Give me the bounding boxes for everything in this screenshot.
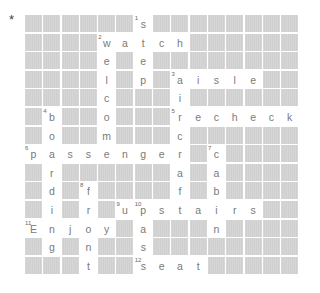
crossword-cell[interactable]: e	[245, 108, 262, 125]
crossword-cell[interactable]: t	[190, 257, 207, 274]
crossword-cell[interactable]: r	[226, 201, 243, 218]
crossword-cell[interactable]: e	[153, 145, 170, 162]
crossword-cell[interactable]: d	[43, 182, 60, 199]
crossword-cell[interactable]: h	[226, 108, 243, 125]
crossword-cell[interactable]: 10p	[135, 201, 152, 218]
crossword-cell[interactable]: s	[153, 201, 170, 218]
blocked-cell	[263, 71, 280, 88]
crossword-cell[interactable]: g	[43, 238, 60, 255]
blocked-cell	[190, 145, 207, 162]
crossword-cell[interactable]: 8f	[80, 182, 97, 199]
blocked-cell	[62, 89, 79, 106]
crossword-cell[interactable]: e	[135, 52, 152, 69]
crossword-cell[interactable]: c	[171, 127, 188, 144]
crossword-cell[interactable]: e	[98, 145, 115, 162]
crossword-cell[interactable]: r	[80, 201, 97, 218]
crossword-cell[interactable]: 6p	[25, 145, 42, 162]
cell-letter: i	[190, 74, 207, 86]
cell-letter: a	[171, 74, 188, 86]
crossword-cell[interactable]: c	[153, 34, 170, 51]
blocked-cell	[245, 238, 262, 255]
crossword-cell[interactable]: a	[43, 145, 60, 162]
crossword-cell[interactable]: y	[98, 220, 115, 237]
crossword-cell[interactable]: c	[208, 108, 225, 125]
blocked-cell	[226, 238, 243, 255]
blocked-cell	[62, 52, 79, 69]
blocked-cell	[43, 15, 60, 32]
crossword-cell[interactable]: r	[43, 164, 60, 181]
blocked-cell	[245, 145, 262, 162]
crossword-cell[interactable]: n	[43, 220, 60, 237]
crossword-cell[interactable]: l	[98, 71, 115, 88]
crossword-cell[interactable]: a	[171, 164, 188, 181]
crossword-cell[interactable]: 7c	[208, 145, 225, 162]
crossword-cell[interactable]: a	[135, 220, 152, 237]
cell-letter: s	[135, 18, 152, 30]
blocked-cell	[98, 257, 115, 274]
crossword-cell[interactable]: 3a	[171, 71, 188, 88]
crossword-cell[interactable]: p	[135, 71, 152, 88]
blocked-cell	[62, 257, 79, 274]
crossword-cell[interactable]: e	[153, 257, 170, 274]
crossword-cell[interactable]: l	[226, 71, 243, 88]
crossword-cell[interactable]: e	[98, 52, 115, 69]
crossword-cell[interactable]: i	[208, 201, 225, 218]
crossword-cell[interactable]: a	[190, 201, 207, 218]
crossword-cell[interactable]: o	[98, 108, 115, 125]
blocked-cell	[80, 108, 97, 125]
crossword-cell[interactable]: e	[245, 71, 262, 88]
crossword-cell[interactable]: c	[98, 89, 115, 106]
crossword-cell[interactable]: f	[171, 182, 188, 199]
crossword-cell[interactable]: 4b	[43, 108, 60, 125]
crossword-cell[interactable]: 5r	[171, 108, 188, 125]
crossword-cell[interactable]: t	[171, 201, 188, 218]
crossword-cell[interactable]: h	[171, 34, 188, 51]
crossword-cell[interactable]: a	[116, 34, 133, 51]
crossword-cell[interactable]: k	[281, 108, 298, 125]
crossword-cell[interactable]: t	[80, 257, 97, 274]
crossword-cell[interactable]: o	[43, 127, 60, 144]
blocked-cell	[116, 15, 133, 32]
cell-letter: i	[208, 204, 225, 216]
crossword-cell[interactable]: 11E	[25, 220, 42, 237]
blocked-cell	[208, 257, 225, 274]
crossword-cell[interactable]: g	[135, 145, 152, 162]
crossword-cell[interactable]: 2w	[98, 34, 115, 51]
crossword-cell[interactable]: 12s	[135, 257, 152, 274]
blocked-cell	[153, 238, 170, 255]
cell-letter: g	[43, 241, 60, 253]
crossword-cell[interactable]: a	[208, 164, 225, 181]
crossword-cell[interactable]: s	[245, 201, 262, 218]
crossword-cell[interactable]: n	[208, 220, 225, 237]
crossword-cell[interactable]: s	[135, 238, 152, 255]
crossword-cell[interactable]: c	[263, 108, 280, 125]
crossword-cell[interactable]: o	[80, 220, 97, 237]
crossword-cell[interactable]: n	[116, 145, 133, 162]
crossword-cell[interactable]: 9u	[116, 201, 133, 218]
blocked-cell	[190, 220, 207, 237]
blocked-cell	[25, 164, 42, 181]
crossword-cell[interactable]: b	[208, 182, 225, 199]
crossword-cell[interactable]: i	[190, 71, 207, 88]
cell-letter: y	[98, 223, 115, 235]
blocked-cell	[208, 15, 225, 32]
crossword-cell[interactable]: 1s	[135, 15, 152, 32]
crossword-cell[interactable]: n	[80, 238, 97, 255]
crossword-cell[interactable]: s	[208, 71, 225, 88]
crossword-cell[interactable]: i	[43, 201, 60, 218]
crossword-cell[interactable]: s	[80, 145, 97, 162]
blocked-cell	[62, 238, 79, 255]
crossword-cell[interactable]: r	[171, 145, 188, 162]
blocked-cell	[62, 71, 79, 88]
cell-letter: k	[281, 111, 298, 123]
crossword-cell[interactable]: s	[62, 145, 79, 162]
crossword-cell[interactable]: m	[98, 127, 115, 144]
crossword-cell[interactable]: e	[190, 108, 207, 125]
crossword-cell[interactable]: j	[62, 220, 79, 237]
blocked-cell	[263, 127, 280, 144]
crossword-cell[interactable]: i	[171, 89, 188, 106]
blocked-cell	[25, 34, 42, 51]
cell-letter: w	[98, 37, 115, 49]
crossword-cell[interactable]: a	[171, 257, 188, 274]
crossword-cell[interactable]: t	[135, 34, 152, 51]
